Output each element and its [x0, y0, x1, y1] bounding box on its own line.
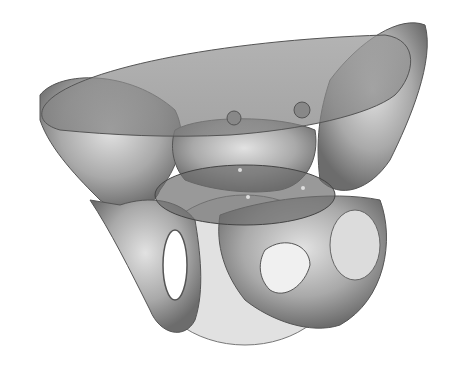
pelvic-inlet-plane — [155, 165, 335, 225]
marker-2 — [246, 195, 250, 199]
marker-1 — [238, 168, 242, 172]
marker-3 — [301, 186, 305, 190]
landmark-right — [294, 102, 310, 118]
pelvis-illustration — [0, 0, 457, 374]
pelvis-rendering — [0, 0, 457, 374]
right-acetabulum — [330, 210, 380, 280]
landmark-left — [227, 111, 241, 125]
left-obturator-foramen — [163, 230, 187, 300]
